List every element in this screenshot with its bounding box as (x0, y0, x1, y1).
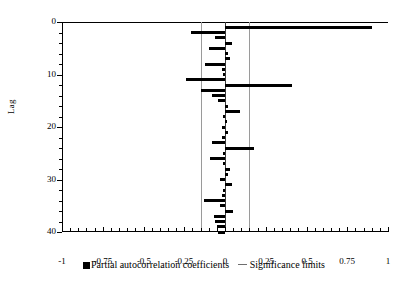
y-tick (59, 43, 62, 44)
bar-lag-34 (204, 199, 225, 202)
x-tick (78, 228, 79, 232)
legend-label-significance: Significance limits (250, 259, 325, 271)
significance-limit-line-upper (249, 22, 250, 232)
bar-lag-6 (225, 52, 228, 55)
x-tick (168, 228, 169, 232)
bar-lag-2 (191, 31, 225, 34)
y-tick (57, 22, 62, 23)
legend-label-coefficients: Partial autocorrelation coefficients (91, 259, 229, 271)
x-tick (225, 227, 226, 232)
bar-lag-30 (220, 178, 225, 181)
y-axis-line (62, 22, 63, 232)
x-tick (282, 228, 283, 232)
y-tick (59, 169, 62, 170)
y-tick (57, 75, 62, 76)
x-tick (388, 227, 389, 232)
y-tick (59, 33, 62, 34)
bar-lag-38 (215, 220, 225, 223)
x-tick (258, 228, 259, 232)
bar-lag-32 (223, 189, 225, 192)
y-tick (59, 64, 62, 65)
x-tick (241, 228, 242, 232)
x-tick (339, 228, 340, 232)
y-tick (57, 180, 62, 181)
bar-lag-40 (218, 231, 225, 234)
y-tick (59, 201, 62, 202)
bar-lag-13 (201, 89, 225, 92)
y-tick (59, 148, 62, 149)
y-tick (59, 222, 62, 223)
x-tick (62, 227, 63, 232)
x-tick (111, 228, 112, 232)
x-tick (127, 228, 128, 232)
bar-lag-39 (217, 225, 225, 228)
chart-legend: Partial autocorrelation coefficients Sig… (0, 258, 408, 271)
bar-lag-11 (186, 78, 225, 81)
bar-lag-16 (225, 105, 228, 108)
bar-lag-14 (212, 94, 225, 97)
bar-lag-35 (220, 204, 225, 207)
x-tick (70, 228, 71, 232)
x-tick (144, 227, 145, 232)
x-tick (323, 228, 324, 232)
y-tick-label: 20 (34, 122, 56, 131)
x-tick (372, 228, 373, 232)
bar-lag-28 (225, 168, 230, 171)
y-axis-title: Lag (6, 99, 16, 114)
bar-lag-9 (222, 68, 225, 71)
y-tick-label: 40 (34, 227, 56, 236)
x-tick (298, 228, 299, 232)
x-tick (266, 227, 267, 232)
x-tick (103, 227, 104, 232)
x-tick (307, 227, 308, 232)
bar-lag-7 (225, 57, 230, 60)
bar-lag-1 (225, 26, 372, 29)
x-tick (160, 228, 161, 232)
x-tick (290, 228, 291, 232)
bar-lag-37 (214, 215, 225, 218)
x-tick (315, 228, 316, 232)
y-tick (59, 85, 62, 86)
x-tick (209, 228, 210, 232)
bar-lag-31 (225, 183, 232, 186)
y-tick (59, 96, 62, 97)
bar-lag-12 (225, 84, 292, 87)
x-tick (135, 228, 136, 232)
bar-lag-4 (225, 42, 232, 45)
x-tick (119, 228, 120, 232)
y-tick (59, 159, 62, 160)
x-tick (192, 228, 193, 232)
y-tick (59, 138, 62, 139)
x-tick (249, 228, 250, 232)
bar-lag-18 (223, 115, 225, 118)
y-tick (59, 117, 62, 118)
x-tick (152, 228, 153, 232)
legend-item-significance: Significance limits (232, 259, 325, 271)
x-tick (331, 228, 332, 232)
legend-item-coefficients: Partial autocorrelation coefficients (83, 259, 229, 271)
x-tick (201, 228, 202, 232)
bar-lag-29 (225, 173, 228, 176)
bar-lag-17 (225, 110, 240, 113)
y-tick (59, 106, 62, 107)
y-tick (59, 211, 62, 212)
plot-area: -1-0.75-0.5-0.2500.250.50.751 010203040 (62, 22, 388, 232)
bar-lag-24 (225, 147, 254, 150)
y-tick-label: 30 (34, 175, 56, 184)
x-tick (217, 228, 218, 232)
y-tick (57, 127, 62, 128)
y-tick (59, 54, 62, 55)
x-tick (176, 228, 177, 232)
x-tick (274, 228, 275, 232)
y-tick-label: 0 (34, 17, 56, 26)
bar-lag-27 (223, 162, 225, 165)
significance-limit-line-lower (201, 22, 202, 232)
x-tick (380, 228, 381, 232)
square-marker-icon (83, 262, 90, 269)
x-tick (347, 227, 348, 232)
y-tick-label: 10 (34, 70, 56, 79)
line-marker-icon (238, 264, 247, 265)
bar-lag-36 (225, 210, 233, 213)
bar-lag-21 (225, 131, 228, 134)
bar-lag-23 (212, 141, 225, 144)
